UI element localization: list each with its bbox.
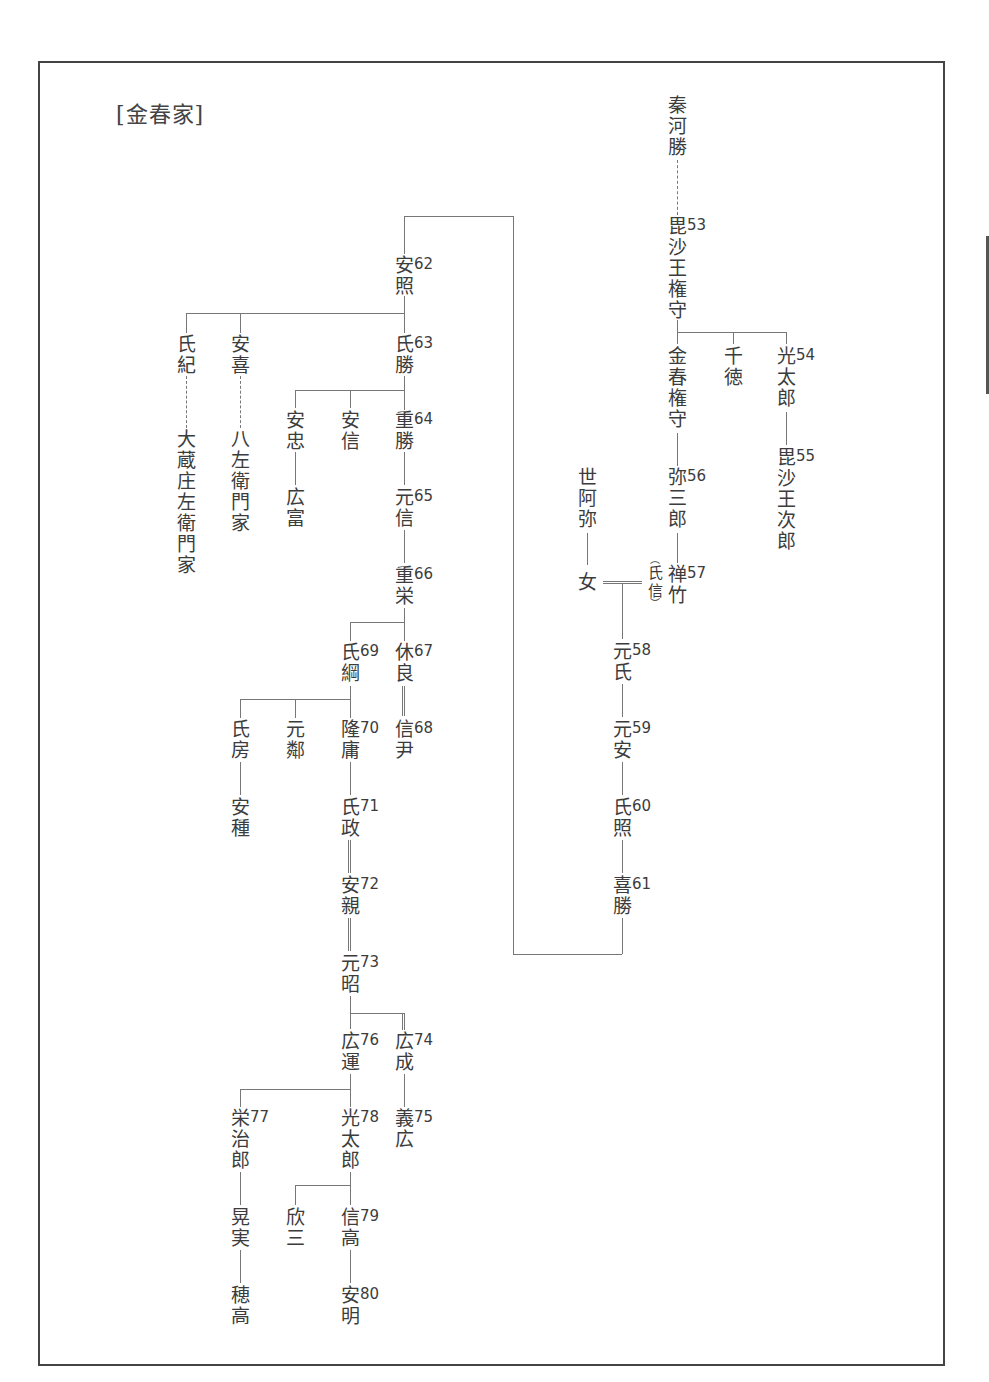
adoption-line <box>402 686 405 716</box>
line-dashed <box>240 376 241 428</box>
person-onna: 女 <box>576 572 598 593</box>
person-mitsutaro-54: 54 光 太 郎 <box>775 346 797 409</box>
generation-number: 53 <box>687 215 706 235</box>
generation-number: 61 <box>632 874 651 894</box>
generation-number: 70 <box>360 718 379 738</box>
person-nobutaka: 79 信 高 <box>339 1207 361 1249</box>
person-hotaka: 穂 高 <box>229 1285 251 1327</box>
generation-number: 60 <box>632 796 651 816</box>
line <box>186 313 404 314</box>
person-motoaki: 73 元 昭 <box>339 953 361 995</box>
line <box>186 313 187 333</box>
person-mitsutaro-78: 78 光 太 郎 <box>339 1108 361 1171</box>
generation-number: 76 <box>360 1030 379 1050</box>
adoption-line <box>348 918 351 951</box>
person-bishao-jiro: 55 毘 沙 王 次 郎 <box>775 447 797 552</box>
line <box>404 216 513 217</box>
line <box>350 622 351 641</box>
generation-number: 67 <box>414 641 433 661</box>
person-bishao-gonnokami: 53 毘 沙 王 権 守 <box>666 216 688 321</box>
adoption-line <box>402 1013 405 1030</box>
line <box>350 1172 351 1205</box>
person-shigekatsu: 64 重 勝 <box>393 410 415 452</box>
generation-number: 58 <box>632 640 651 660</box>
line <box>587 533 588 565</box>
generation-number: 66 <box>414 564 433 584</box>
person-ujikatsu: 63 氏 勝 <box>393 334 415 376</box>
line <box>240 1089 241 1107</box>
line <box>295 1185 296 1205</box>
line <box>733 332 734 344</box>
person-sentoku: 千 徳 <box>722 346 744 388</box>
line <box>240 1250 241 1283</box>
person-motonobu: 65 元 信 <box>393 487 415 529</box>
person-ujinori: 氏 紀 <box>175 334 197 376</box>
person-konparu-gonnokami: 金 春 権 守 <box>666 346 688 430</box>
generation-number: 56 <box>687 466 706 486</box>
line <box>786 332 787 344</box>
generation-number: 77 <box>250 1107 269 1127</box>
line-dashed <box>677 160 678 215</box>
generation-number: 75 <box>414 1107 433 1127</box>
line <box>350 1074 351 1107</box>
line <box>404 530 405 563</box>
line <box>350 390 351 408</box>
adoption-line <box>348 840 351 873</box>
person-shigeyoshi: 66 重 栄 <box>393 565 415 607</box>
person-yasunobu: 安 信 <box>339 410 361 452</box>
generation-number: 57 <box>687 563 706 583</box>
line <box>295 1185 350 1186</box>
line <box>295 390 296 408</box>
generation-number: 63 <box>414 333 433 353</box>
line <box>295 452 296 485</box>
person-zenchiku: 57 禅 竹 <box>666 564 688 606</box>
person-ujifusa: 氏 房 <box>229 719 251 761</box>
generation-number: 73 <box>360 952 379 972</box>
alias-ujinobu: ︵ 氏 信 ︶ <box>644 556 666 608</box>
line <box>677 533 678 563</box>
person-hirotomi: 広 富 <box>284 487 306 529</box>
line <box>622 584 623 639</box>
person-hachizaemon-family: 八 左 衛 門 家 <box>229 429 251 534</box>
person-zeami: 世 阿 弥 <box>576 467 598 530</box>
person-koshi: 晃 実 <box>229 1207 251 1249</box>
line <box>622 840 623 873</box>
generation-number: 64 <box>414 409 433 429</box>
line <box>240 762 241 795</box>
person-yoshihiro: 75 義 広 <box>393 1108 415 1150</box>
person-motoyasu: 59 元 安 <box>611 719 633 761</box>
generation-number: 62 <box>414 254 433 274</box>
diagram-title: [金春家] <box>116 96 204 128</box>
line <box>622 684 623 717</box>
line <box>622 918 623 954</box>
generation-number: 74 <box>414 1030 433 1050</box>
person-yasutada: 安 忠 <box>284 410 306 452</box>
page-frame <box>38 61 945 1366</box>
line <box>677 332 786 333</box>
line <box>677 332 678 344</box>
line <box>404 608 405 641</box>
line <box>350 622 404 623</box>
generation-number: 79 <box>360 1206 379 1226</box>
generation-number: 69 <box>360 641 379 661</box>
person-ujitsuna: 69 氏 綱 <box>339 642 361 684</box>
generation-number: 68 <box>414 718 433 738</box>
line <box>240 1172 241 1205</box>
generation-number: 65 <box>414 486 433 506</box>
person-hironari: 74 広 成 <box>393 1031 415 1073</box>
generation-number: 78 <box>360 1107 379 1127</box>
person-eijiro: 77 栄 治 郎 <box>229 1108 251 1171</box>
line <box>513 954 622 955</box>
line <box>513 216 514 954</box>
line <box>240 1089 350 1090</box>
generation-number: 80 <box>360 1284 379 1304</box>
line <box>350 762 351 795</box>
person-kyuryo: 67 休 良 <box>393 642 415 684</box>
person-ookura-shozaemon-family: 大 蔵 庄 左 衛 門 家 <box>175 429 197 576</box>
line <box>677 433 678 466</box>
line <box>404 296 405 333</box>
person-yasuyoshi: 安 喜 <box>229 334 251 376</box>
person-ujiteru: 60 氏 照 <box>611 797 633 839</box>
line <box>350 686 351 718</box>
person-yasutane: 安 種 <box>229 797 251 839</box>
